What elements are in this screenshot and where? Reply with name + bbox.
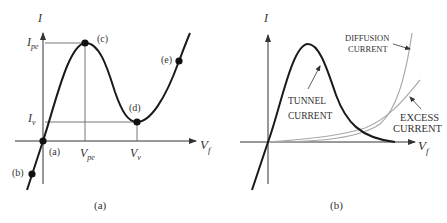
point-b-label: (b) <box>12 167 24 179</box>
point-c-marker <box>81 39 88 46</box>
iv-label: Iv <box>27 111 36 127</box>
panel-b-current-components: TUNNEL CURRENT DIFFUSION CURRENT EXCESS … <box>240 11 443 212</box>
tunnel-arrow <box>308 66 320 89</box>
y-axis-label: I <box>263 11 269 25</box>
ipe-label: Ipe <box>26 35 39 51</box>
point-b-marker <box>28 170 35 177</box>
x-axis-label: Vf <box>200 137 212 155</box>
excess-arrow <box>410 97 421 109</box>
point-d-marker <box>133 118 140 125</box>
tunnel-label: TUNNEL CURRENT <box>288 96 333 121</box>
diffusion-label: DIFFUSION CURRENT <box>345 33 392 54</box>
panel-a-caption: (a) <box>94 199 107 212</box>
point-e-label: (e) <box>161 54 172 66</box>
diffusion-current-curve <box>268 33 412 142</box>
vpe-label: Vpe <box>80 146 95 162</box>
point-a-label: (a) <box>49 146 60 158</box>
point-e-marker <box>175 57 182 64</box>
panel-a-iv-curve: (a) (b) (c) (d) (e) I Vf Ipe Iv Vpe Vv (… <box>12 11 212 212</box>
x-axis-label: Vf <box>418 138 430 156</box>
vv-label: Vv <box>130 146 141 162</box>
panel-b-caption: (b) <box>330 199 343 212</box>
excess-label: EXCESS CURRENT <box>393 112 443 134</box>
point-d-label: (d) <box>129 102 141 114</box>
point-a-marker <box>39 137 46 144</box>
diffusion-arrow <box>393 44 410 49</box>
point-c-label: (c) <box>97 33 108 45</box>
y-axis-label: I <box>37 11 43 25</box>
tunnel-diode-figure: (a) (b) (c) (d) (e) I Vf Ipe Iv Vpe Vv (… <box>0 0 447 223</box>
